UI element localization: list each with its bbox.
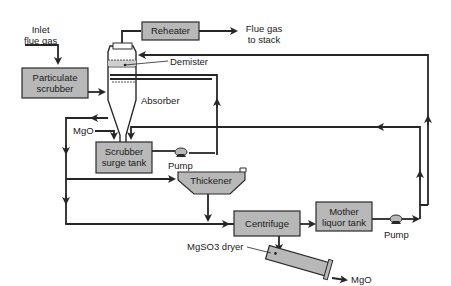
dryer-leader [247,247,271,253]
absorber-label: Absorber [141,95,180,106]
demister-label: Demister [170,56,208,67]
inlet-flue-gas-label: Inlet flue gas [24,24,57,46]
mother-label-line1: Mother [316,206,372,217]
flue-gas-label-line1: Flue gas [242,23,286,34]
surge-label-line1: Scrubber [96,146,152,157]
demister-pad [108,60,136,66]
inlet-flue-gas-line [25,45,58,63]
flue-gas-stack-label: Flue gas to stack [242,23,286,45]
particulate-label-line1: Particulate [22,72,88,83]
mgso3-dryer [265,243,333,280]
mgo-feed-label: MgO [73,125,94,136]
surge-label-line2: surge tank [96,157,152,168]
absorber-to-reheater-line [122,31,141,43]
absorber-cap [113,43,132,49]
reheater-label: Reheater [142,25,199,36]
mother-label-line2: liquor tank [316,217,372,228]
mgo-feed-line [95,131,114,138]
pump2-riser [420,205,428,219]
mother-liquor-label: Mother liquor tank [316,206,372,228]
thickener-label: Thickener [180,175,242,186]
pump-2-icon [390,215,402,224]
particulate-scrubber-label: Particulate scrubber [22,72,88,94]
mgo-product-label: MgO [351,274,372,285]
dryer-to-mgo-line [332,278,346,280]
flue-gas-label-line2: to stack [242,34,286,45]
pump-1-label: Pump [168,160,193,171]
pump-1-icon [175,148,187,157]
surge-tank-label: Scrubber surge tank [96,146,152,168]
dryer-label: MgSO3 dryer [187,241,244,252]
centrifuge-label: Centrifuge [234,218,300,229]
particulate-label-line2: scrubber [22,83,88,94]
inlet-label-line1: Inlet [24,24,57,35]
inlet-label-line2: flue gas [24,35,57,46]
pump-2-label: Pump [384,229,409,240]
